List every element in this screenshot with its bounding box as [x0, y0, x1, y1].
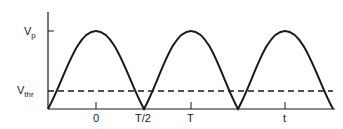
x-label-time: t [283, 113, 286, 124]
label-vthr: Vthr [17, 85, 34, 96]
x-label-half-period: T/2 [135, 113, 151, 124]
x-label-period: T [187, 113, 194, 124]
label-vp: Vp [24, 26, 36, 37]
x-label-0: 0 [93, 113, 99, 124]
rectified-sine-wave [48, 31, 333, 109]
waveform-diagram [0, 0, 343, 129]
